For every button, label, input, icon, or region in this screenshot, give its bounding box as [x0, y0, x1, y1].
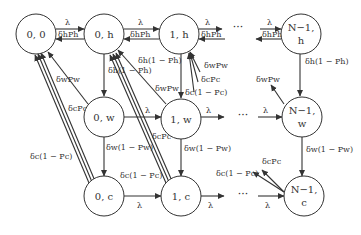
- node-N-1-c: N−1, c: [284, 176, 324, 216]
- label-lambda: λ: [208, 201, 213, 210]
- label-lambda: λ: [267, 18, 272, 27]
- label-lambda: λ: [205, 18, 210, 27]
- node-0-0: 0, 0: [16, 14, 56, 54]
- node-N-1-h: N−1, h: [281, 14, 321, 54]
- node-label: 0, 0: [26, 29, 45, 40]
- edge-1w-next: λ: [201, 106, 224, 117]
- ellipsis: ···: [238, 188, 249, 201]
- edge-1h-next: λ δhPh: [199, 18, 225, 39]
- label-lambda: λ: [145, 106, 150, 115]
- label-lambda: λ: [138, 18, 143, 27]
- ellipsis: ···: [238, 109, 249, 122]
- label-dw-1pw: δw(1 − Pw): [306, 145, 353, 154]
- ellipsis: ···: [233, 21, 244, 34]
- node-label: h: [298, 35, 305, 46]
- node-1-h: 1, h: [159, 14, 199, 54]
- edge-prev-Nh: λ δhPh: [256, 18, 283, 39]
- label-dc-pc: δcPc: [262, 157, 282, 166]
- node-label: N−1,: [288, 22, 315, 33]
- label-lambda: λ: [265, 201, 270, 210]
- label-dw-1pw: δw(1 − Pw): [184, 144, 231, 153]
- label-dc-1pc: δc(1 − Pc): [216, 169, 258, 178]
- node-label: N−1,: [289, 105, 316, 116]
- label-dc-1pc: δc(1 − Pc): [120, 171, 162, 180]
- edge-1c-next: λ: [201, 196, 224, 210]
- node-N-1-w: N−1, w: [282, 97, 322, 137]
- label-lambda: λ: [137, 201, 142, 210]
- node-1-w: 1, w: [161, 99, 201, 139]
- node-label: 1, c: [172, 191, 191, 202]
- label-dc-pc: δcPc: [201, 75, 221, 84]
- edge-0c-1c: λ: [124, 196, 161, 210]
- edge-00-0h: λ δhPh: [56, 18, 84, 39]
- label-dh-1ph: δh(1 − Ph): [108, 66, 152, 75]
- label-dw-pw: δwPw: [256, 75, 280, 84]
- edge-prev-Nw: λ: [258, 106, 282, 117]
- node-label: 0, w: [93, 112, 115, 123]
- label-dh-1ph: δh(1 − Ph): [138, 56, 182, 65]
- edges-into-1h: [189, 52, 200, 92]
- edge-prev-Nc: λ: [258, 196, 284, 210]
- node-label: w: [298, 118, 307, 129]
- label-lambda: λ: [206, 106, 211, 115]
- edge-0w-1w: λ: [124, 106, 161, 117]
- node-label: 0, h: [94, 29, 114, 40]
- node-label: 0, c: [95, 191, 114, 202]
- label-dh-ph: δhPh: [58, 30, 79, 39]
- edge-0h-1h: λ δhPh: [124, 18, 159, 39]
- node-label: N−1,: [291, 184, 318, 195]
- label-lambda: λ: [263, 106, 268, 115]
- label-dh-ph: δhPh: [262, 30, 283, 39]
- node-label: 1, w: [170, 114, 192, 125]
- label-dw-pw: δwPw: [204, 61, 228, 70]
- label-dw-pw: δwPw: [155, 84, 179, 93]
- label-dc-1pc: δc(1 − Pc): [185, 88, 227, 97]
- node-0-c: 0, c: [84, 176, 124, 216]
- label-dw-pw: δwPw: [56, 75, 80, 84]
- edge-Nw-out: [271, 85, 284, 104]
- label-dh-ph: δhPh: [130, 30, 151, 39]
- node-label: 1, h: [169, 29, 189, 40]
- node-1-c: 1, c: [161, 176, 201, 216]
- label-dh-1ph: δh(1 − Ph): [305, 57, 349, 66]
- label-lambda: λ: [65, 18, 70, 27]
- label-dc-1pc: δc(1 − Pc): [30, 152, 72, 161]
- markov-chain-diagram: λ δhPh λ δhPh λ δhPh ··· λ δhPh λ λ ··· …: [0, 0, 361, 235]
- node-0-w: 0, w: [84, 97, 124, 137]
- node-0-h: 0, h: [84, 14, 124, 54]
- label-dw-1pw: δw(1 − Pw): [106, 143, 153, 152]
- label-dh-ph: δhPh: [201, 30, 222, 39]
- node-label: c: [301, 197, 307, 208]
